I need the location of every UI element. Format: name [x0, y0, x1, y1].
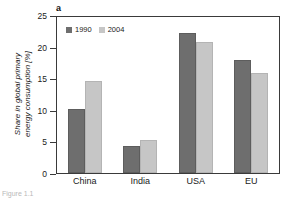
y-tick-label: 10 [7, 106, 47, 116]
y-axis-title-line-1: Share in global primary [13, 14, 23, 174]
x-axis-label: EU [224, 176, 280, 186]
bar [179, 33, 196, 173]
panel-letter: a [56, 3, 61, 13]
bar [251, 73, 268, 173]
y-tick-label: 0 [7, 169, 47, 179]
bar [234, 60, 251, 173]
y-tick-label: 5 [7, 137, 47, 147]
figure-panel: a Share in global primary energy consump… [0, 0, 296, 199]
x-axis-label: India [113, 176, 169, 186]
bar [85, 81, 102, 173]
bar [140, 140, 157, 173]
x-axis-label: USA [168, 176, 224, 186]
bar [196, 42, 213, 173]
figure-caption-fragment: Figure 1.1 [2, 190, 34, 198]
bar [123, 146, 140, 173]
y-tick-label: 25 [7, 11, 47, 21]
bar-group [113, 17, 169, 173]
y-axis-title: Share in global primary energy consumpti… [13, 14, 33, 174]
bar-group [168, 17, 224, 173]
bar-group [224, 17, 280, 173]
y-tick [50, 174, 56, 175]
x-axis-labels: ChinaIndiaUSAEU [57, 176, 279, 186]
x-axis-label: China [57, 176, 113, 186]
y-tick-label: 20 [7, 43, 47, 53]
bar-groups [57, 17, 279, 173]
bar-group [57, 17, 113, 173]
y-axis-title-line-2: energy consumption [%] [23, 14, 33, 174]
y-tick-label: 15 [7, 74, 47, 84]
bar [68, 109, 85, 173]
